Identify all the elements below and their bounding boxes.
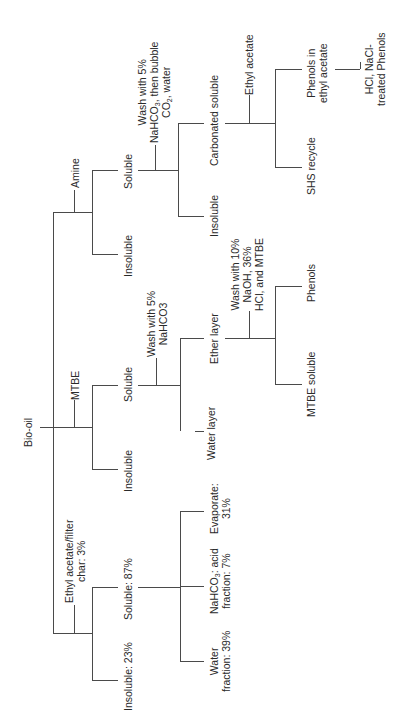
hcl-nacl-treated-phenols-label: HCl, NaCl- treated Phenols xyxy=(363,32,387,106)
mtbe-insoluble-label: Insoluble xyxy=(122,450,134,492)
phenols-in-ethyl-acetate-label: Phenols in ethyl acetate xyxy=(305,43,329,103)
water-layer-label: Water layer xyxy=(205,407,217,460)
mtbe-soluble-final-label: MTBE soluble xyxy=(305,352,317,417)
ethyl-acetate-filter-char-label: Ethyl acetate/filter char: 3% xyxy=(63,520,87,603)
nahco3-acid-fraction-label: NaHCO3: acid fraction: 7% xyxy=(208,548,232,614)
shs-recycle-label: SHS recycle xyxy=(305,137,317,195)
amine-soluble-label: Soluble xyxy=(122,154,134,189)
root-label-bio-oil: Bio-oil xyxy=(22,418,34,447)
ethyl-acetate-label: Ethyl acetate xyxy=(243,34,255,95)
carbonated-soluble-label: Carbonated soluble xyxy=(208,75,220,166)
water-fraction-39-label: Water fraction: 39% xyxy=(208,631,232,692)
amine-insoluble-label: Insoluble xyxy=(122,235,134,277)
mtbe-wash2-label: Wash with 10% NaOH, 36% HCl, and MTBE xyxy=(229,238,265,311)
mtbe-wash-label: Wash with 5% NaHCO3 xyxy=(145,291,169,357)
mtbe-solvent-label: MTBE xyxy=(69,371,81,400)
ether-layer-label: Ether layer xyxy=(208,313,220,364)
phenols-label: Phenols xyxy=(305,264,317,302)
connector-lines xyxy=(0,0,399,720)
evaporate-31-label: Evaporate: 31% xyxy=(208,483,232,534)
soluble-87-label: Soluble: 87% xyxy=(122,558,134,620)
insoluble-23-label: Insoluble: 23% xyxy=(122,642,134,711)
bio-oil-separation-flowchart: Bio-oil Amine Soluble Insoluble Wash wit… xyxy=(0,0,399,720)
amine-solvent-label: Amine xyxy=(69,158,81,188)
amine-insoluble-after-wash-label: Insoluble xyxy=(208,195,220,237)
amine-wash-label: Wash with 5% NaHCO3, then bubble CO2, wa… xyxy=(136,42,172,143)
mtbe-soluble-label: Soluble xyxy=(122,367,134,402)
